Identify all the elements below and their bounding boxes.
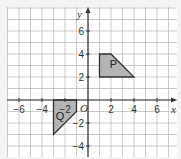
- y-axis-label: y: [76, 8, 82, 20]
- shape-p-label: P: [110, 58, 117, 70]
- y-tick-label: −4: [73, 141, 85, 152]
- y-tick-label: −2: [73, 118, 85, 129]
- x-tick-label: −4: [36, 104, 48, 115]
- x-axis-label: x: [170, 103, 176, 115]
- x-tick-label: 2: [108, 104, 114, 115]
- y-tick-label: 4: [78, 49, 84, 60]
- x-tick-label: −2: [59, 104, 71, 115]
- x-tick-label: −6: [13, 104, 25, 115]
- y-tick-label: 6: [78, 26, 84, 37]
- x-tick-label: 6: [154, 104, 160, 115]
- coordinate-grid: PQ −6−4−2246642−2−4 x y O: [0, 0, 181, 159]
- y-tick-label: 2: [78, 72, 84, 83]
- x-tick-label: 4: [131, 104, 137, 115]
- origin-label: O: [80, 102, 88, 114]
